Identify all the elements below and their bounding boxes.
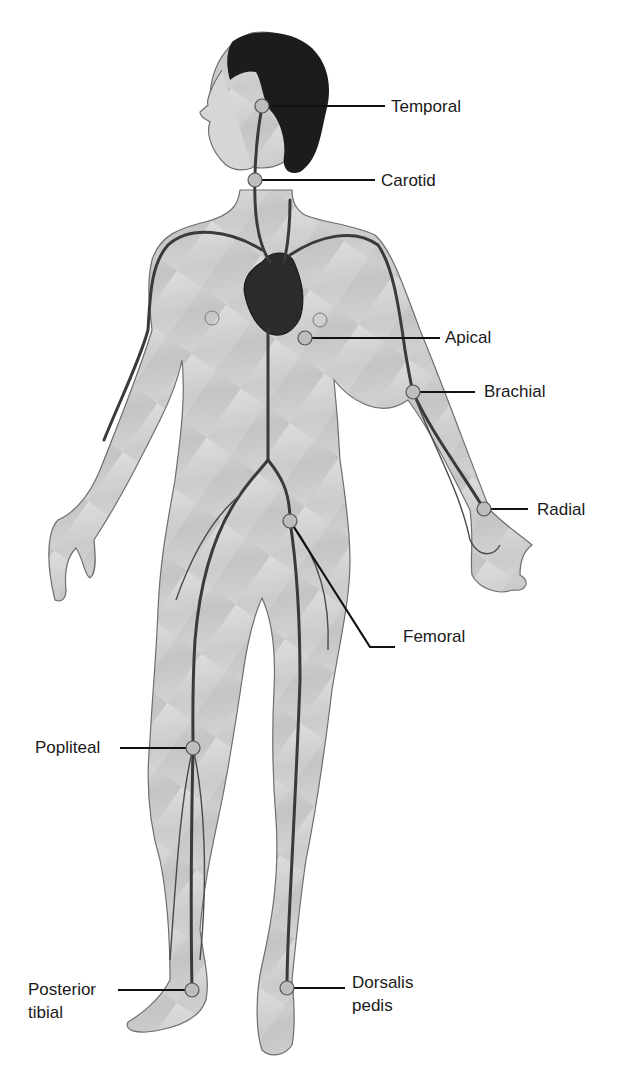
pulse-point-femoral <box>283 514 297 528</box>
label-radial: Radial <box>537 499 585 520</box>
pulse-point-popliteal <box>186 741 200 755</box>
label-femoral: Femoral <box>403 626 465 647</box>
label-popliteal: Popliteal <box>35 737 100 758</box>
label-dorsalis-pedis-line1: Dorsalis <box>352 972 413 993</box>
pulse-point-apical <box>298 331 312 345</box>
pulse-point-carotid <box>248 173 262 187</box>
pulse-point-posterior-tibial <box>185 983 199 997</box>
pulse-point-dorsalis-pedis <box>280 981 294 995</box>
pulse-point-temporal <box>255 99 269 113</box>
pulse-point-radial <box>477 502 491 516</box>
label-posterior-tibial-line1: Posterior <box>28 979 96 1000</box>
label-apical: Apical <box>445 327 491 348</box>
pulse-point-brachial <box>406 385 420 399</box>
label-brachial: Brachial <box>484 381 545 402</box>
label-posterior-tibial-line2: tibial <box>28 1002 63 1023</box>
label-carotid: Carotid <box>381 170 436 191</box>
label-dorsalis-pedis-line2: pedis <box>352 995 393 1016</box>
body-pulse-diagram <box>0 0 622 1071</box>
label-temporal: Temporal <box>391 96 461 117</box>
